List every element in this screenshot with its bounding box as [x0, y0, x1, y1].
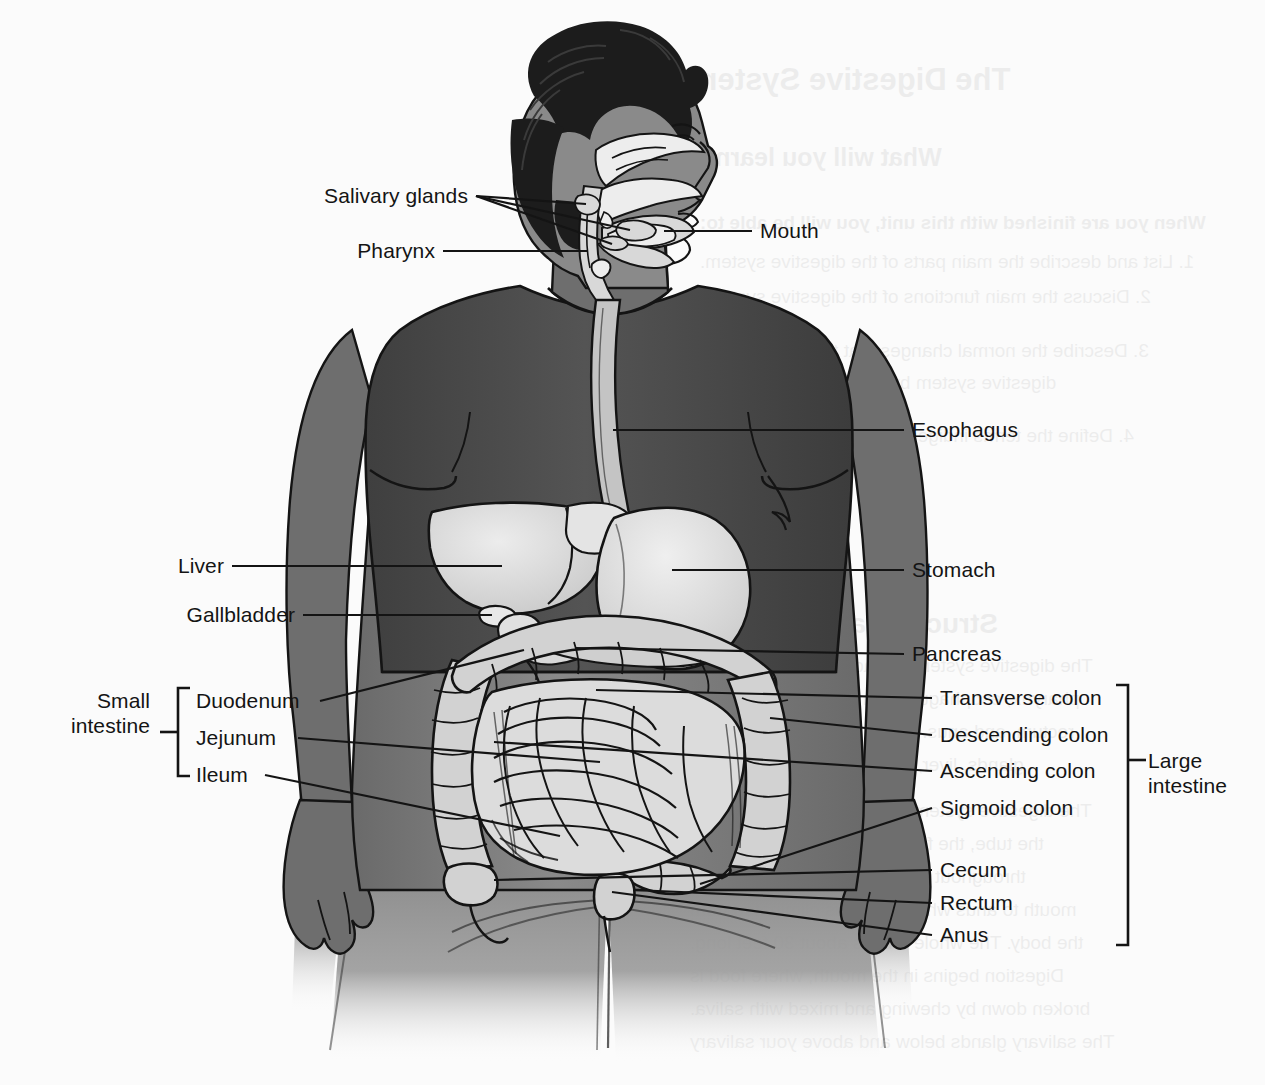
salivary-gland-sublingual	[600, 236, 628, 250]
label-sigmoid-colon: Sigmoid colon	[940, 795, 1073, 820]
label-descending-colon: Descending colon	[940, 722, 1109, 747]
label-anus: Anus	[940, 922, 988, 947]
label-pancreas: Pancreas	[912, 641, 1002, 666]
human-figure	[284, 21, 931, 1062]
anatomy-illustration	[0, 0, 1265, 1085]
label-large-intestine-line2: intestine	[1148, 773, 1227, 798]
label-esophagus: Esophagus	[912, 417, 1018, 442]
label-cecum: Cecum	[940, 857, 1007, 882]
label-small-intestine-line1: Small	[35, 688, 150, 713]
label-stomach: Stomach	[912, 557, 996, 582]
label-pharynx: Pharynx	[357, 238, 435, 263]
label-rectum: Rectum	[940, 890, 1013, 915]
large-intestine-bracket	[1116, 685, 1128, 945]
label-mouth: Mouth	[760, 218, 819, 243]
cecum	[444, 864, 498, 906]
label-ileum: Ileum	[196, 762, 248, 787]
label-duodenum: Duodenum	[196, 688, 300, 713]
label-jejunum: Jejunum	[196, 725, 276, 750]
label-ascending-colon: Ascending colon	[940, 758, 1096, 783]
label-liver: Liver	[178, 553, 224, 578]
label-gallbladder: Gallbladder	[187, 602, 296, 627]
label-small-intestine-line2: intestine	[35, 713, 150, 738]
label-large-intestine: Largeintestine	[1148, 748, 1227, 798]
rectum	[594, 873, 635, 919]
digestive-system-diagram: The Digestive SystemWhat will you learn?…	[0, 0, 1265, 1085]
label-transverse-colon: Transverse colon	[940, 685, 1102, 710]
label-salivary-glands: Salivary glands	[324, 183, 468, 208]
label-large-intestine-line1: Large	[1148, 748, 1227, 773]
label-small-intestine: Smallintestine	[35, 688, 150, 738]
small-intestine-bracket	[178, 688, 190, 776]
